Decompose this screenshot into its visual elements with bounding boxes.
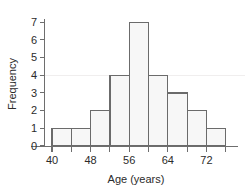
x-tick-label-40: 40: [46, 154, 58, 166]
y-tick-label-4: 4: [31, 69, 37, 81]
y-axis-title: Frequency: [6, 58, 18, 110]
bar-60-64: [149, 75, 168, 146]
y-tick-label-1: 1: [31, 122, 37, 134]
y-tick-label-3: 3: [31, 87, 37, 99]
x-tick-label-48: 48: [84, 154, 96, 166]
bar-68-72: [187, 111, 206, 146]
bar-72-76: [206, 128, 225, 146]
y-tick-label-7: 7: [31, 16, 37, 28]
bars-group: [52, 22, 226, 146]
bar-52-56: [110, 75, 129, 146]
y-tick-label-6: 6: [31, 34, 37, 46]
x-tick-label-56: 56: [123, 154, 135, 166]
y-tick-label-2: 2: [31, 104, 37, 116]
y-tick-label-5: 5: [31, 51, 37, 63]
y-ticks-group: [40, 22, 45, 146]
x-tick-label-64: 64: [162, 154, 174, 166]
plot-area: 0 1 2 3 4 5 6 7 40 48: [0, 0, 245, 191]
bar-56-60: [129, 22, 148, 146]
histogram-chart: 0 1 2 3 4 5 6 7 40 48: [0, 0, 245, 191]
x-tick-label-72: 72: [200, 154, 212, 166]
bar-64-68: [168, 93, 187, 146]
bar-48-52: [91, 111, 110, 146]
x-axis-title: Age (years): [108, 173, 165, 185]
bar-40-44: [52, 128, 71, 146]
x-ticks-group: [52, 147, 226, 152]
bar-44-48: [71, 128, 90, 146]
y-tick-label-0: 0: [31, 140, 37, 152]
chart-svg: 0 1 2 3 4 5 6 7 40 48: [0, 0, 245, 191]
